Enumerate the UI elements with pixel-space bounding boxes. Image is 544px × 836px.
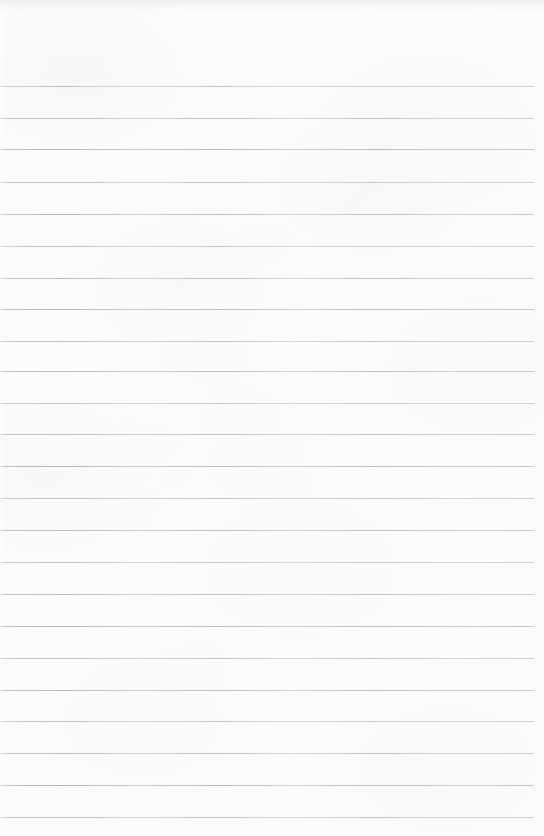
rule-line — [0, 817, 534, 818]
rule-line — [0, 246, 534, 247]
rule-line — [0, 86, 534, 87]
rule-line — [0, 149, 534, 150]
rule-line — [0, 785, 534, 786]
ruled-lines-layer — [0, 0, 544, 836]
rule-line — [0, 466, 534, 467]
rule-line — [0, 562, 534, 563]
rule-line — [0, 753, 534, 754]
rule-line — [0, 626, 534, 627]
rule-line — [0, 498, 534, 499]
rule-line — [0, 434, 534, 435]
rule-line — [0, 594, 534, 595]
rule-line — [0, 658, 534, 659]
rule-line — [0, 309, 534, 310]
rule-line — [0, 530, 534, 531]
rule-line — [0, 341, 534, 342]
rule-line — [0, 118, 534, 119]
rule-line — [0, 721, 534, 722]
rule-line — [0, 403, 534, 404]
scanned-notebook-page — [0, 0, 544, 836]
rule-line — [0, 690, 534, 691]
rule-line — [0, 278, 534, 279]
rule-line — [0, 214, 534, 215]
rule-line — [0, 371, 534, 372]
rule-line — [0, 182, 534, 183]
